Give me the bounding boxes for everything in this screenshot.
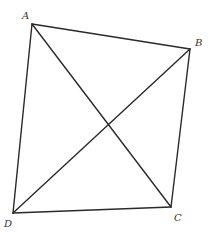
vertex-label-c: C: [174, 212, 182, 223]
vertex-label-d: D: [3, 218, 12, 229]
diagonal-ac: [32, 24, 171, 207]
side-ab: [32, 24, 190, 49]
diagonal-bd: [13, 49, 190, 213]
side-da: [13, 24, 32, 213]
side-bc: [171, 49, 190, 207]
vertex-label-b: B: [194, 37, 202, 48]
side-cd: [13, 207, 171, 213]
vertex-label-a: A: [21, 10, 29, 21]
edges-group: [13, 24, 190, 213]
quadrilateral-diagram: A B C D: [0, 0, 212, 233]
